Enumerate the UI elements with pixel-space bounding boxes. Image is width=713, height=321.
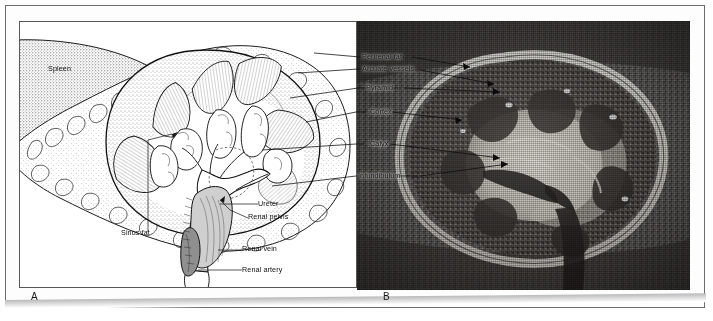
label-spleen: Spleen <box>48 65 71 73</box>
label-renal-vein: Renal vein <box>242 245 277 253</box>
label-cortex: Cortex <box>370 108 392 116</box>
label-pyramid: Pyramid <box>366 84 393 92</box>
label-sinus-fat: Sinus fat <box>121 229 150 237</box>
kidney-specimen-photo <box>357 21 690 290</box>
panel-letter-b: B <box>383 291 390 302</box>
label-renal-pelvis: Renal pelvis <box>248 213 288 221</box>
panel-a-line-drawing: Spleen Sinus fat Ureter Renal pelvis Ren… <box>19 21 357 288</box>
label-calyx: Calyx <box>370 140 388 148</box>
photo-vignette <box>357 21 690 290</box>
label-perirenal-fat: Perirenal fat <box>362 53 402 61</box>
panel-letter-a: A <box>31 291 38 302</box>
label-arcuate-vessels: Arcuate vessels <box>362 65 414 73</box>
panel-a-artwork <box>20 22 356 287</box>
panel-b-photograph <box>357 21 690 290</box>
label-infundibulum: Infundibulum <box>358 172 400 180</box>
figure-kidney-coronal-section: Spleen Sinus fat Ureter Renal pelvis Ren… <box>0 0 713 321</box>
label-renal-artery: Renal artery <box>242 266 282 274</box>
label-ureter: Ureter <box>258 200 279 208</box>
